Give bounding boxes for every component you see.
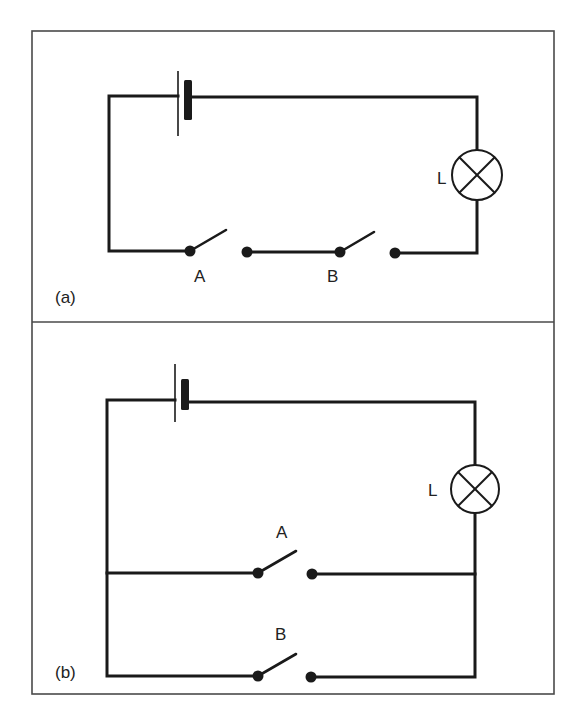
wire-b-left xyxy=(107,400,258,676)
cell-negative-plate xyxy=(181,379,189,410)
lamp-icon xyxy=(452,150,502,200)
wire-a-lamp-bottom xyxy=(395,200,477,253)
switch-b-icon xyxy=(253,654,317,683)
switch-a-icon xyxy=(253,551,318,580)
panel-a-series-circuit: L A B (a) xyxy=(55,71,502,307)
lamp-icon xyxy=(451,465,499,513)
switch-a-icon xyxy=(185,230,253,258)
switch-a-label: A xyxy=(194,267,206,286)
battery-cell-icon xyxy=(175,364,189,422)
lamp-label: L xyxy=(437,169,446,188)
switch-b-icon xyxy=(335,232,401,259)
circuit-diagram: L A B (a) xyxy=(0,0,575,709)
panel-b-parallel-circuit: L A B (b) xyxy=(55,364,499,683)
panel-b-label: (b) xyxy=(55,663,76,682)
battery-cell-icon xyxy=(178,71,192,136)
wire-a-top-right xyxy=(190,97,477,150)
switch-b-label: B xyxy=(275,625,286,644)
cell-negative-plate xyxy=(184,80,192,120)
wire-b-top-right xyxy=(187,402,475,465)
switch-a-label: A xyxy=(276,523,288,542)
lamp-label: L xyxy=(428,481,437,500)
panel-a-label: (a) xyxy=(55,288,76,307)
wire-b-lamp-bottom xyxy=(311,513,475,677)
switch-b-label: B xyxy=(327,267,338,286)
